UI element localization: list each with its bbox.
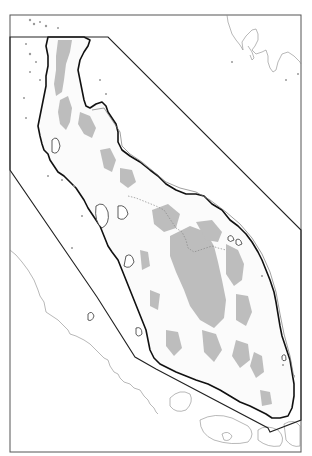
neighbor-island-south-5 xyxy=(222,432,232,440)
neighbor-coast-northeast xyxy=(227,15,301,72)
neighbor-island-south-2 xyxy=(200,415,252,443)
neighbor-island-south-3 xyxy=(258,427,283,446)
map-canvas xyxy=(0,0,312,456)
neighbor-island-south-1 xyxy=(170,392,191,412)
